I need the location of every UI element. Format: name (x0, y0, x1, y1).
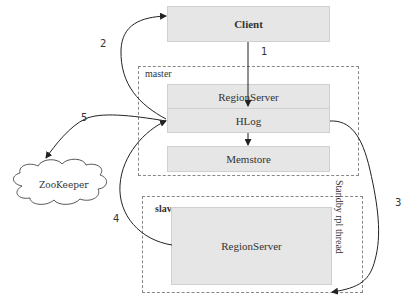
edge-label-2: 2 (100, 38, 106, 49)
edge-label-3: 3 (395, 197, 401, 208)
master-group-label: master (145, 68, 172, 79)
edge-label-4: 4 (113, 213, 119, 224)
client-node: Client (167, 6, 330, 42)
edge-label-1: 1 (261, 46, 267, 57)
edge-label-5: 5 (81, 112, 87, 123)
standby-rpl-thread-label: Standby rpl thread (334, 180, 345, 254)
zookeeper-node: ZooKeeper (39, 180, 89, 190)
master-regionserver-node: RegionServer (167, 84, 330, 109)
memstore-node: Memstore (167, 146, 330, 172)
slave-regionserver-node: RegionServer (171, 207, 332, 285)
hlog-node: HLog (167, 108, 330, 133)
